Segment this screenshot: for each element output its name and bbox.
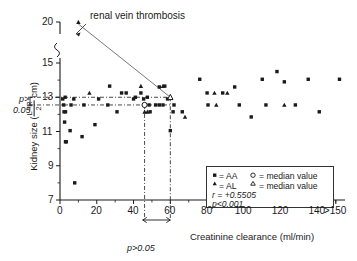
data-point-aa xyxy=(238,103,241,106)
legend-row-aa-median: = median value xyxy=(259,171,318,181)
legend-filled-square-icon xyxy=(213,174,216,177)
x-axis-tick-label: 40 xyxy=(128,206,139,216)
y-axis-tick-label: 7 xyxy=(48,195,54,205)
y-axis-tick-label: 15 xyxy=(42,58,53,68)
data-point-al xyxy=(76,20,80,24)
data-point-aa xyxy=(154,103,157,106)
data-point-aa xyxy=(275,70,278,73)
legend-filled-triangle-icon xyxy=(213,181,217,185)
data-point-aa xyxy=(80,135,83,138)
x-axis-label: Creatinine clearance (ml/min) xyxy=(190,232,314,242)
data-point-aa xyxy=(158,85,161,88)
data-point-aa xyxy=(205,91,208,94)
data-point-al xyxy=(139,84,143,88)
x-axis-tick-label: 0 xyxy=(57,206,63,216)
annotation-renal-vein-thrombosis: renal vein thrombosis xyxy=(90,11,185,21)
data-point-aa xyxy=(221,91,224,94)
data-point-al xyxy=(87,91,91,95)
data-point-aa xyxy=(124,91,127,94)
p-value-y-line1: p> xyxy=(19,95,29,104)
data-point-aa xyxy=(64,110,67,113)
data-point-aa xyxy=(93,123,96,126)
y-axis-label-prefix: Kidney size ( xyxy=(28,116,39,170)
legend-row-al: = AL xyxy=(219,181,236,191)
data-point-al xyxy=(183,115,187,119)
legend-open-triangle-icon xyxy=(251,181,256,185)
data-point-aa xyxy=(82,103,85,106)
data-point-aa xyxy=(115,110,118,113)
data-point-aa xyxy=(264,103,267,106)
data-point-aa xyxy=(158,103,161,106)
p-value-y-line2: 0.05 xyxy=(13,106,31,115)
data-point-aa xyxy=(198,78,201,81)
data-point-al xyxy=(282,103,286,107)
data-point-aa xyxy=(97,97,100,100)
y-axis-tick-label: 9 xyxy=(48,161,54,171)
y-axis-tick-label: 13 xyxy=(42,92,53,102)
data-point-al xyxy=(225,91,229,95)
data-point-median-value-aa xyxy=(142,102,147,107)
data-point-aa xyxy=(294,103,297,106)
plot-canvas xyxy=(0,0,357,261)
data-point-aa xyxy=(172,103,175,106)
x-axis-tick-label: 120 xyxy=(272,206,289,216)
legend: = AA = median value = AL = median value … xyxy=(206,166,334,208)
data-point-aa xyxy=(69,103,72,106)
data-point-aa xyxy=(63,96,66,99)
x-axis-tick-label: 20 xyxy=(91,206,102,216)
x-axis-tick-label: 60 xyxy=(164,206,175,216)
data-point-aa xyxy=(62,103,65,106)
data-point-median-value-al xyxy=(168,94,173,99)
data-point-aa xyxy=(171,110,174,113)
data-point-aa xyxy=(250,115,253,118)
data-point-aa xyxy=(63,120,66,123)
data-point-aa xyxy=(181,110,184,113)
y-axis-tick-label: 20 xyxy=(42,17,53,27)
data-point-aa xyxy=(147,103,150,106)
y-axis-tick-label: 11 xyxy=(42,127,52,137)
p-value-x-label: p>0.05 xyxy=(127,244,155,253)
data-point-aa xyxy=(142,97,145,100)
x-axis-tick-label: 100 xyxy=(235,206,252,216)
data-point-aa xyxy=(338,78,341,81)
data-point-aa xyxy=(134,96,137,99)
legend-row-aa: = AA xyxy=(219,171,237,181)
data-point-aa xyxy=(283,80,286,83)
scatter-plot-figure: renal vein thrombosis Kidney size (L+R2 … xyxy=(0,0,357,261)
y-axis-label: Kidney size (L+R2 cm) xyxy=(26,66,43,186)
legend-open-circle-icon xyxy=(251,173,255,177)
data-point-aa xyxy=(169,129,172,132)
data-point-aa xyxy=(73,181,76,184)
data-point-aa xyxy=(139,91,142,94)
data-point-aa xyxy=(68,129,71,132)
data-point-aa xyxy=(206,103,209,106)
data-point-aa xyxy=(72,97,75,100)
data-point-aa xyxy=(106,103,109,106)
data-point-al xyxy=(214,103,218,107)
data-point-aa xyxy=(307,78,310,81)
y-axis-break-icon xyxy=(55,43,60,57)
data-point-aa xyxy=(318,110,321,113)
data-point-al xyxy=(212,91,216,95)
legend-row-al-median: = median value xyxy=(259,181,318,191)
data-point-aa xyxy=(108,84,111,87)
data-point-aa xyxy=(120,91,123,94)
outlier-connector-line xyxy=(78,24,170,97)
x-axis-tick-label: 80 xyxy=(201,206,212,216)
data-point-aa xyxy=(65,140,68,143)
data-point-aa xyxy=(146,96,149,99)
x-axis-tick-label: 140 xyxy=(308,206,325,216)
data-point-aa xyxy=(261,78,264,81)
data-point-aa xyxy=(161,103,164,106)
data-point-aa xyxy=(233,85,236,88)
x-axis-tick-label: >150 xyxy=(324,206,347,216)
y-axis-label-denominator: 2 xyxy=(35,100,43,116)
